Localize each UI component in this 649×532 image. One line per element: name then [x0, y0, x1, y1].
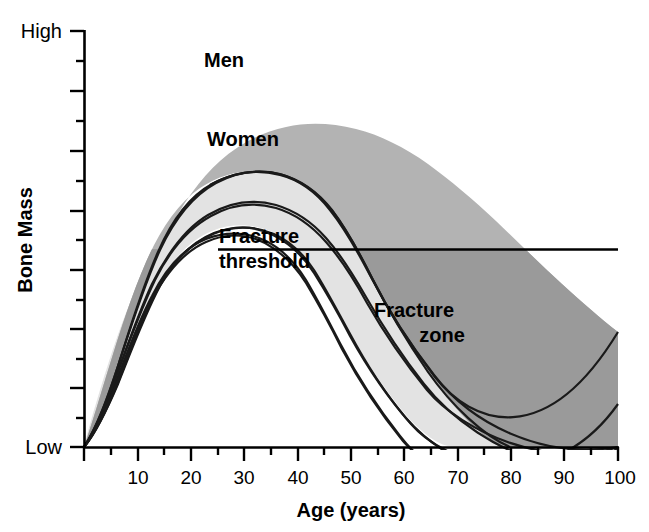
x-tick-label-20: 20 [180, 467, 201, 488]
y-axis-title: Bone Mass [14, 187, 36, 293]
fracture-zone-label-line2: zone [419, 324, 465, 346]
x-tick-label-40: 40 [287, 467, 308, 488]
fracture-zone-label-line1: Fracture [374, 299, 454, 321]
x-tick-label-10: 10 [127, 467, 148, 488]
x-tick-label-50: 50 [340, 467, 361, 488]
fracture-threshold-label-line2: threshold [219, 250, 310, 272]
band-group [84, 124, 618, 486]
x-tick-label-100: 100 [604, 467, 636, 488]
fracture-threshold-label-line1: Fracture [219, 225, 299, 247]
y-axis-high-label: High [21, 20, 62, 42]
x-tick-label-30: 30 [233, 467, 254, 488]
bone-mass-age-chart: High Low Bone Mass 10 20 30 40 50 60 70 … [0, 0, 649, 532]
x-tick-label-70: 70 [447, 467, 468, 488]
x-axis-title: Age (years) [297, 499, 406, 521]
x-tick-label-60: 60 [393, 467, 414, 488]
y-axis-ticks [70, 31, 84, 447]
x-tick-label-90: 90 [553, 467, 574, 488]
women-band-label: Women [207, 128, 279, 150]
y-axis-low-label: Low [25, 436, 62, 458]
chart-svg: High Low Bone Mass 10 20 30 40 50 60 70 … [0, 0, 649, 532]
x-axis-ticks [84, 447, 618, 461]
men-band-label: Men [204, 49, 244, 71]
x-tick-label-80: 80 [500, 467, 521, 488]
